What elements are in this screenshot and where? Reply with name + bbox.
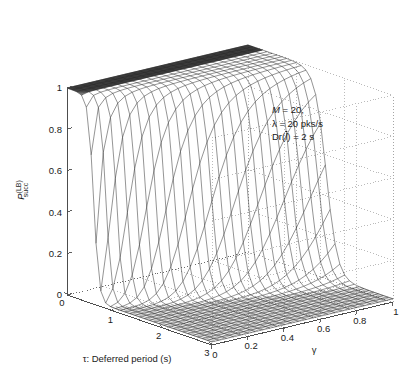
annotation-line-Dr: Dr(l) = 2 s bbox=[272, 131, 314, 142]
svg-text:0.6: 0.6 bbox=[49, 165, 62, 176]
svg-text:1: 1 bbox=[393, 306, 398, 317]
svg-text:0.2: 0.2 bbox=[49, 248, 62, 259]
annotation-line-lambda: λ = 20 pks/s bbox=[272, 118, 323, 129]
svg-text:3: 3 bbox=[204, 347, 209, 358]
surface-mesh bbox=[67, 45, 393, 342]
svg-text:0.4: 0.4 bbox=[281, 332, 294, 343]
z-axis-title: P(LB)succ bbox=[15, 180, 29, 200]
surface-plot-canvas: 00.20.40.60.81012300.20.40.60.81τ: Defer… bbox=[0, 0, 420, 389]
svg-text:0: 0 bbox=[59, 297, 64, 308]
svg-text:0.8: 0.8 bbox=[353, 315, 366, 326]
svg-text:2: 2 bbox=[156, 330, 161, 341]
figure-3d-surface-plot: 00.20.40.60.81012300.20.40.60.81τ: Defer… bbox=[0, 0, 420, 389]
x-axis-title: τ: Deferred period (s) bbox=[83, 353, 172, 364]
y-axis-title: γ bbox=[312, 344, 317, 355]
svg-text:0.8: 0.8 bbox=[49, 124, 62, 135]
svg-text:0.2: 0.2 bbox=[245, 340, 258, 351]
svg-text:1: 1 bbox=[57, 82, 62, 93]
annotation-line-M: M = 20, bbox=[272, 104, 304, 115]
svg-text:0.6: 0.6 bbox=[317, 323, 330, 334]
svg-text:1: 1 bbox=[108, 314, 113, 325]
axis-labels: 00.20.40.60.81012300.20.40.60.81τ: Defer… bbox=[15, 82, 399, 364]
annotation-text: M = 20,λ = 20 pks/sDr(l) = 2 s bbox=[272, 104, 323, 142]
svg-text:0: 0 bbox=[212, 349, 217, 360]
svg-text:0.4: 0.4 bbox=[49, 207, 62, 218]
